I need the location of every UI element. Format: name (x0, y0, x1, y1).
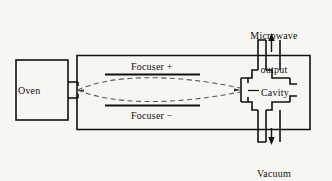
beam-direction-arrowheads (78, 89, 241, 92)
diagram-canvas: Oven Focuser + Focuser − Cavity Microwav… (0, 0, 332, 181)
focuser-upper-label: Focuser + (131, 61, 173, 72)
microwave-output-label-line1: Microwave (238, 30, 310, 41)
molecular-beam-path (78, 78, 240, 102)
vacuum-pump-label-line1: Vacuum (238, 168, 310, 179)
microwave-output-label-line2: output (238, 64, 310, 75)
oven-label: Oven (18, 85, 40, 96)
vacuum-pump-label: Vacuum pump (238, 146, 310, 181)
focuser-lower-label: Focuser − (131, 110, 173, 121)
microwave-output-label: Microwave output (238, 8, 310, 98)
vacuum-pump-arrow (268, 128, 274, 145)
